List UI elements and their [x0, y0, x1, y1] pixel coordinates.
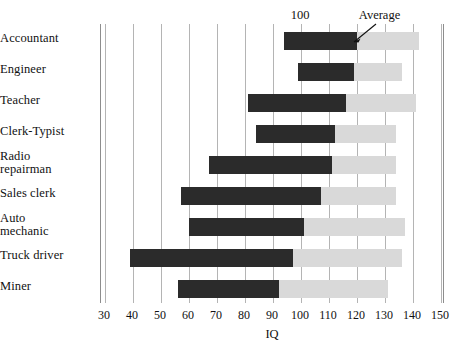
category-label-line: repairman	[0, 163, 96, 176]
category-label-line: Engineer	[0, 63, 96, 76]
bar-main-range	[189, 218, 304, 236]
category-label: Teacher	[0, 94, 96, 107]
category-label: Radiorepairman	[0, 150, 96, 176]
x-tick-label: 80	[229, 308, 259, 323]
x-tick-label: 100	[285, 308, 315, 323]
category-label-line: mechanic	[0, 225, 96, 238]
annotation-average-label: Average	[359, 8, 400, 23]
x-tick-label: 140	[397, 308, 427, 323]
category-label: Automechanic	[0, 212, 96, 238]
bar-row	[101, 218, 443, 236]
category-label-line: Clerk-Typist	[0, 125, 96, 138]
x-tick-label: 50	[145, 308, 175, 323]
x-tick-label: 130	[369, 308, 399, 323]
category-label: Accountant	[0, 32, 96, 45]
category-label-line: Sales clerk	[0, 187, 96, 200]
bar-row	[101, 156, 443, 174]
bar-row	[101, 187, 443, 205]
category-label: Engineer	[0, 63, 96, 76]
annotation-100-label: 100	[280, 8, 320, 23]
bar-main-range	[248, 94, 346, 112]
category-label-line: Radio	[0, 150, 96, 163]
category-label: Truck driver	[0, 249, 96, 262]
category-label-line: Auto	[0, 212, 96, 225]
x-tick-label: 120	[341, 308, 371, 323]
category-axis-labels: AccountantEngineerTeacherClerk-TypistRad…	[0, 0, 96, 355]
bar-row	[101, 280, 443, 298]
bar-row	[101, 32, 443, 50]
bar-main-range	[209, 156, 332, 174]
bar-row	[101, 249, 443, 267]
iq-by-occupation-chart: AccountantEngineerTeacherClerk-TypistRad…	[0, 0, 460, 355]
category-label: Miner	[0, 280, 96, 293]
bar-row	[101, 63, 443, 81]
category-label-line: Miner	[0, 280, 96, 293]
x-axis-title: IQ	[252, 327, 292, 342]
x-tick-label: 110	[313, 308, 343, 323]
bar-main-range	[130, 249, 292, 267]
x-tick-label: 90	[257, 308, 287, 323]
category-label-line: Accountant	[0, 32, 96, 45]
bar-row	[101, 94, 443, 112]
bar-main-range	[256, 125, 334, 143]
bar-row	[101, 125, 443, 143]
plot-area	[100, 24, 444, 303]
category-label: Sales clerk	[0, 187, 96, 200]
category-label: Clerk-Typist	[0, 125, 96, 138]
x-tick-label: 150	[425, 308, 455, 323]
category-label-line: Truck driver	[0, 249, 96, 262]
x-axis: 30405060708090100110120130140150	[100, 303, 444, 323]
bar-main-range	[178, 280, 279, 298]
x-tick-label: 40	[117, 308, 147, 323]
x-tick-label: 70	[201, 308, 231, 323]
x-tick-label: 30	[89, 308, 119, 323]
annotation-average-arrow	[342, 22, 382, 46]
bar-main-range	[298, 63, 354, 81]
category-label-line: Teacher	[0, 94, 96, 107]
x-tick-label: 60	[173, 308, 203, 323]
bar-main-range	[181, 187, 321, 205]
